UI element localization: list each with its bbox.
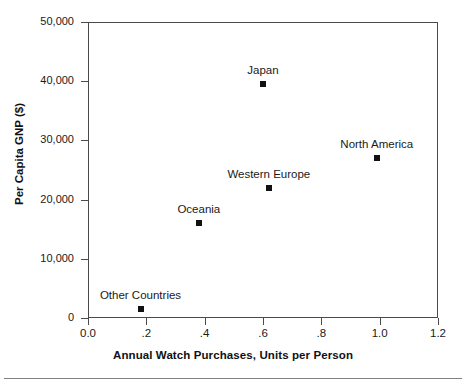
bottom-divider [4,378,462,379]
x-axis-tick-label: 1.2 [410,327,466,339]
data-point-label: Other Countries [100,289,181,301]
x-axis-tick-label: .2 [118,327,174,339]
data-point-marker[interactable] [266,185,272,191]
x-axis-tick [380,318,381,325]
x-axis-tick [263,318,264,325]
data-point-label: North America [340,138,413,150]
x-axis-tick-label: .6 [235,327,291,339]
data-point-label: Western Europe [227,168,310,180]
data-point-label: Oceania [177,203,220,215]
y-axis-tick [81,140,88,141]
x-axis-tick [205,318,206,325]
y-axis-tick-label: 40,000 [14,75,74,86]
y-axis-tick-label: 50,000 [14,16,74,27]
data-point-label: Japan [247,64,278,76]
x-axis-tick [88,318,89,325]
data-point-marker[interactable] [374,155,380,161]
data-point-marker[interactable] [138,306,144,312]
y-axis-tick-label: 30,000 [14,134,74,145]
y-axis-tick [81,81,88,82]
y-axis-tick-label: 0 [14,312,74,323]
data-point-marker[interactable] [260,81,266,87]
y-axis-tick [81,22,88,23]
x-axis-title: Annual Watch Purchases, Units per Person [0,349,466,361]
y-axis-tick-label: 10,000 [14,253,74,264]
x-axis-tick-label: .4 [177,327,233,339]
y-axis-title: Per Capita GNP ($) [13,64,25,244]
data-point-marker[interactable] [196,220,202,226]
x-axis-tick [438,318,439,325]
y-axis-tick [81,318,88,319]
x-axis-tick [321,318,322,325]
scatter-chart-figure: Per Capita GNP ($) Annual Watch Purchase… [0,0,466,385]
y-axis-tick-label: 20,000 [14,194,74,205]
x-axis-tick-label: 0.0 [60,327,116,339]
y-axis-tick [81,259,88,260]
x-axis-tick-label: 1.0 [352,327,408,339]
y-axis-tick [81,200,88,201]
x-axis-tick-label: .8 [293,327,349,339]
x-axis-tick [146,318,147,325]
